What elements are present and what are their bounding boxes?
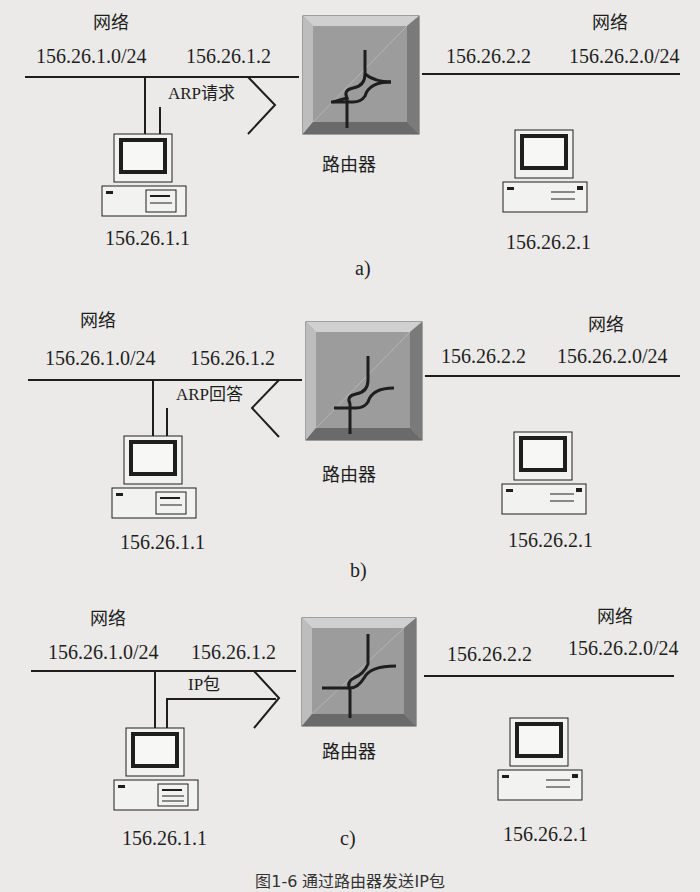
left-gateway-ip: 156.26.1.2: [191, 642, 276, 662]
right-network-subnet: 156.26.2.0/24: [557, 346, 668, 366]
right-gateway-ip: 156.26.2.2: [441, 346, 526, 366]
panel-label: c): [340, 828, 356, 848]
left-network-subnet: 156.26.1.0/24: [48, 642, 159, 662]
panel-label: a): [355, 258, 371, 278]
left-host-computer-icon: [112, 436, 202, 520]
right-host-ip: 156.26.2.1: [506, 232, 591, 252]
panel-c: 网络 156.26.1.0/24 156.26.1.2 IP包 路由器 网络 1…: [0, 590, 700, 860]
host-link-2: [159, 107, 161, 134]
host-link: [154, 670, 156, 728]
router-icon: [306, 322, 422, 440]
left-network-title: 网络: [80, 312, 116, 330]
right-network-bus: [425, 375, 680, 377]
arrow-right-icon: [252, 670, 284, 730]
left-host-ip: 156.26.1.1: [122, 828, 207, 848]
right-host-computer-icon: [503, 130, 593, 214]
right-host-computer-icon: [498, 718, 588, 802]
left-network-title: 网络: [90, 610, 126, 628]
left-host-computer-icon: [102, 134, 192, 218]
left-gateway-ip: 156.26.1.2: [190, 348, 275, 368]
right-host-ip: 156.26.2.1: [503, 824, 588, 844]
message-label: ARP回答: [176, 386, 243, 403]
right-host-ip: 156.26.2.1: [508, 530, 593, 550]
arrow-right-icon: [246, 76, 278, 136]
left-network-title: 网络: [93, 14, 129, 32]
panel-b: 网络 156.26.1.0/24 156.26.1.2 ARP回答 路由器 网络…: [0, 290, 700, 590]
figure-caption: 图1-6 通过路由器发送IP包: [0, 868, 700, 892]
left-host-ip: 156.26.1.1: [105, 228, 190, 248]
router-label: 路由器: [322, 156, 376, 174]
right-host-computer-icon: [502, 432, 592, 516]
right-gateway-ip: 156.26.2.2: [447, 644, 532, 664]
router-icon: [302, 618, 416, 726]
left-gateway-ip: 156.26.1.2: [186, 46, 271, 66]
host-link-2: [166, 408, 168, 437]
right-gateway-ip: 156.26.2.2: [446, 46, 531, 66]
right-network-title: 网络: [597, 608, 633, 626]
packet-path-vertical: [166, 698, 168, 728]
left-network-subnet: 156.26.1.0/24: [36, 46, 147, 66]
router-label: 路由器: [322, 466, 376, 484]
host-link: [144, 76, 146, 134]
right-network-bus: [424, 675, 674, 677]
right-network-subnet: 156.26.2.0/24: [569, 46, 680, 66]
left-network-subnet: 156.26.1.0/24: [45, 348, 156, 368]
message-label: IP包: [188, 676, 220, 693]
router-icon: [303, 16, 419, 134]
right-network-bus: [422, 73, 680, 75]
arrow-left-icon: [250, 379, 282, 439]
left-host-ip: 156.26.1.1: [120, 532, 205, 552]
host-link: [152, 379, 154, 437]
router-label: 路由器: [322, 743, 376, 761]
left-host-computer-icon: [114, 728, 204, 812]
right-network-title: 网络: [592, 14, 628, 32]
panel-label: b): [350, 560, 367, 580]
panel-a: 网络 156.26.1.0/24 156.26.1.2 ARP请求 路由器 网络…: [0, 0, 700, 290]
right-network-title: 网络: [588, 316, 624, 334]
message-label: ARP请求: [168, 85, 235, 102]
right-network-subnet: 156.26.2.0/24: [568, 638, 679, 658]
